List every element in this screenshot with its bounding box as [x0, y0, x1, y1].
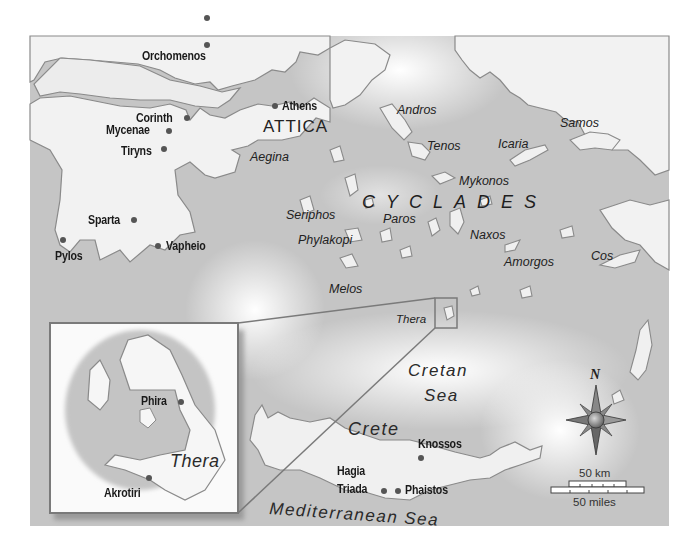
map: Orchomenos Athens Corinth Mycenae Tiryns… — [0, 0, 691, 544]
site-label-triada: Triada — [337, 483, 367, 496]
region-label-attica: ATTICA — [263, 118, 328, 135]
island-label-seriphos: Seriphos — [286, 209, 335, 222]
inset-island-label-thera: Thera — [170, 452, 220, 470]
island-label-phylakopi: Phylakopi — [298, 234, 352, 247]
inset-site-label-akrotiri: Akrotiri — [104, 487, 140, 500]
island-label-andros: Andros — [397, 104, 437, 117]
scale-km-label: 50 km — [579, 468, 610, 480]
island-label-naxos: Naxos — [470, 229, 505, 242]
island-label-icaria: Icaria — [498, 138, 529, 151]
region-label-cyclades: CYCLADES — [362, 193, 547, 211]
island-label-thera: Thera — [396, 314, 426, 326]
island-label-mykonos: Mykonos — [459, 175, 509, 188]
island-label-cos: Cos — [591, 250, 613, 263]
site-label-athens: Athens — [282, 100, 317, 113]
site-label-pylos: Pylos — [55, 250, 83, 263]
site-label-orchomenos: Orchomenos — [142, 50, 206, 63]
region-label-crete: Crete — [348, 420, 400, 438]
island-label-melos: Melos — [329, 283, 362, 296]
sea-label-cretan-1: Cretan — [408, 362, 468, 379]
site-label-sparta: Sparta — [88, 214, 120, 227]
inset-site-label-phira: Phira — [141, 395, 167, 408]
island-label-amorgos: Amorgos — [504, 256, 554, 269]
site-label-phaistos: Phaistos — [405, 484, 448, 497]
compass-north-label: N — [590, 368, 600, 382]
inset-thera — [50, 323, 238, 513]
sea-label-cretan-2: Sea — [424, 387, 459, 404]
island-label-tenos: Tenos — [427, 140, 461, 153]
site-label-knossos: Knossos — [418, 438, 462, 451]
site-label-vapheio: Vapheio — [166, 240, 206, 253]
scale-miles-label: 50 miles — [573, 497, 616, 509]
island-label-samos: Samos — [560, 117, 599, 130]
map-canvas — [0, 0, 691, 544]
island-label-paros: Paros — [383, 213, 416, 226]
site-label-tiryns: Tiryns — [121, 145, 152, 158]
island-label-aegina: Aegina — [250, 151, 289, 164]
site-label-mycenae: Mycenae — [106, 124, 150, 137]
site-label-hagia: Hagia — [337, 465, 365, 478]
